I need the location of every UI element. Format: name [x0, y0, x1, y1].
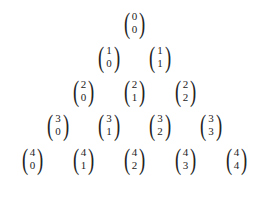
binomial-coefficient: ( 2 1 )	[109, 75, 160, 107]
binomial-stack: 3 0	[54, 112, 62, 138]
binomial-inner: ( 0 0 )	[122, 9, 148, 37]
binomial-coefficient: ( 1 1 )	[135, 41, 186, 73]
right-paren-icon: )	[139, 145, 145, 173]
binomial-n: 3	[55, 112, 61, 125]
binomial-k: 0	[30, 159, 36, 172]
binomial-inner: ( 4 1 )	[71, 145, 97, 173]
right-paren-icon: )	[216, 111, 222, 139]
binomial-stack: 2 1	[131, 78, 139, 104]
binomial-k: 1	[81, 159, 87, 172]
binomial-stack: 3 3	[207, 112, 215, 138]
left-paren-icon: (	[98, 111, 104, 139]
right-paren-icon: )	[190, 145, 196, 173]
binomial-inner: ( 3 1 )	[96, 111, 122, 139]
binomial-n: 4	[132, 146, 138, 159]
binomial-inner: ( 4 4 )	[224, 145, 250, 173]
binomial-k: 0	[106, 57, 112, 70]
right-paren-icon: )	[241, 145, 247, 173]
binomial-k: 3	[208, 125, 214, 138]
pascal-row: ( 1 0 ) ( 1 1 )	[0, 41, 269, 75]
binomial-n: 0	[132, 10, 138, 23]
binomial-coefficient: ( 4 2 )	[109, 143, 160, 175]
binomial-inner: ( 4 3 )	[173, 145, 199, 173]
binomial-inner: ( 3 0 )	[45, 111, 71, 139]
left-paren-icon: (	[22, 145, 28, 173]
binomial-inner: ( 2 1 )	[122, 77, 148, 105]
binomial-n: 3	[106, 112, 112, 125]
binomial-k: 3	[183, 159, 189, 172]
binomial-coefficient: ( 1 0 )	[84, 41, 135, 73]
left-paren-icon: (	[175, 77, 181, 105]
binomial-n: 3	[157, 112, 163, 125]
binomial-stack: 4 4	[233, 146, 241, 172]
binomial-inner: ( 3 2 )	[147, 111, 173, 139]
binomial-k: 1	[157, 57, 163, 70]
binomial-n: 4	[81, 146, 87, 159]
pascal-row: ( 2 0 ) ( 2 1 ) ( 2	[0, 75, 269, 109]
binomial-coefficient: ( 4 0 )	[7, 143, 58, 175]
binomial-coefficient: ( 3 2 )	[135, 109, 186, 141]
left-paren-icon: (	[98, 43, 104, 71]
right-paren-icon: )	[63, 111, 69, 139]
binomial-stack: 0 0	[131, 10, 139, 36]
binomial-inner: ( 3 3 )	[198, 111, 224, 139]
binomial-k: 4	[234, 159, 240, 172]
binomial-n: 4	[183, 146, 189, 159]
binomial-inner: ( 2 0 )	[71, 77, 97, 105]
binomial-k: 0	[81, 91, 87, 104]
pascal-row: ( 4 0 ) ( 4 1 ) ( 4	[0, 143, 269, 177]
binomial-coefficient: ( 4 1 )	[58, 143, 109, 175]
right-paren-icon: )	[88, 145, 94, 173]
binomial-k: 1	[106, 125, 112, 138]
right-paren-icon: )	[114, 43, 120, 71]
left-paren-icon: (	[124, 145, 130, 173]
left-paren-icon: (	[226, 145, 232, 173]
binomial-k: 2	[157, 125, 163, 138]
left-paren-icon: (	[149, 43, 155, 71]
binomial-stack: 3 1	[105, 112, 113, 138]
binomial-inner: ( 1 1 )	[147, 43, 173, 71]
left-paren-icon: (	[175, 145, 181, 173]
right-paren-icon: )	[37, 145, 43, 173]
binomial-inner: ( 4 0 )	[20, 145, 46, 173]
binomial-n: 2	[81, 78, 87, 91]
left-paren-icon: (	[124, 77, 130, 105]
binomial-coefficient: ( 2 2 )	[160, 75, 211, 107]
binomial-stack: 1 0	[105, 44, 113, 70]
binomial-n: 4	[234, 146, 240, 159]
binomial-coefficient: ( 0 0 )	[109, 7, 160, 39]
right-paren-icon: )	[88, 77, 94, 105]
binomial-n: 4	[30, 146, 36, 159]
binomial-inner: ( 2 2 )	[173, 77, 199, 105]
binomial-stack: 4 3	[182, 146, 190, 172]
binomial-coefficient: ( 4 4 )	[211, 143, 262, 175]
binomial-coefficient: ( 2 0 )	[58, 75, 109, 107]
binomial-n: 1	[157, 44, 163, 57]
binomial-n: 1	[106, 44, 112, 57]
binomial-stack: 2 0	[80, 78, 88, 104]
binomial-n: 3	[208, 112, 214, 125]
left-paren-icon: (	[149, 111, 155, 139]
pascals-triangle: ( 0 0 ) ( 1 0 ) (	[0, 0, 269, 199]
pascal-row: ( 0 0 )	[0, 7, 269, 41]
binomial-stack: 3 2	[156, 112, 164, 138]
binomial-k: 1	[132, 91, 138, 104]
binomial-k: 0	[132, 23, 138, 36]
binomial-k: 2	[132, 159, 138, 172]
binomial-n: 2	[132, 78, 138, 91]
binomial-stack: 1 1	[156, 44, 164, 70]
left-paren-icon: (	[73, 145, 79, 173]
left-paren-icon: (	[73, 77, 79, 105]
binomial-coefficient: ( 3 0 )	[33, 109, 84, 141]
pascal-row: ( 3 0 ) ( 3 1 ) ( 3	[0, 109, 269, 143]
left-paren-icon: (	[47, 111, 53, 139]
binomial-stack: 2 2	[182, 78, 190, 104]
right-paren-icon: )	[114, 111, 120, 139]
binomial-coefficient: ( 3 1 )	[84, 109, 135, 141]
binomial-stack: 4 2	[131, 146, 139, 172]
binomial-stack: 4 1	[80, 146, 88, 172]
right-paren-icon: )	[190, 77, 196, 105]
left-paren-icon: (	[124, 9, 130, 37]
left-paren-icon: (	[200, 111, 206, 139]
right-paren-icon: )	[165, 43, 171, 71]
